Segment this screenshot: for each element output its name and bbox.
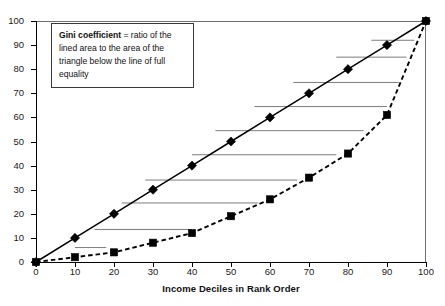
x-tick-label-70: 70 xyxy=(304,266,315,277)
data-point-0-50 xyxy=(226,137,235,146)
x-tick-label-90: 90 xyxy=(382,266,393,277)
y-tick-label-100: 100 xyxy=(8,15,24,26)
y-tick-label-80: 80 xyxy=(13,63,24,74)
data-point-1-40 xyxy=(188,229,195,236)
data-point-1-30 xyxy=(149,239,156,246)
data-point-1-70 xyxy=(305,174,312,181)
data-point-0-10 xyxy=(70,233,79,242)
data-point-0-40 xyxy=(187,161,196,170)
x-tick-label-100: 100 xyxy=(418,266,434,277)
y-tick-label-60: 60 xyxy=(13,111,24,122)
x-tick-label-0: 0 xyxy=(33,266,38,277)
x-tick-label-60: 60 xyxy=(265,266,276,277)
data-point-1-90 xyxy=(383,111,390,118)
data-point-1-80 xyxy=(344,150,351,157)
data-point-0-90 xyxy=(382,41,391,50)
data-point-1-10 xyxy=(71,254,78,261)
x-tick-label-10: 10 xyxy=(70,266,81,277)
x-tick-label-40: 40 xyxy=(187,266,198,277)
y-tick-label-20: 20 xyxy=(13,208,24,219)
y-tick-label-70: 70 xyxy=(13,87,24,98)
y-axis-tick-labels: 0102030405060708090100 xyxy=(0,21,30,262)
data-point-1-100 xyxy=(422,17,429,24)
gini-term-label: Gini coefficient xyxy=(59,30,121,40)
x-axis-title: Income Deciles in Rank Order xyxy=(36,283,426,294)
y-tick-label-40: 40 xyxy=(13,160,24,171)
x-tick-label-30: 30 xyxy=(148,266,159,277)
x-tick-label-80: 80 xyxy=(343,266,354,277)
y-tick-label-0: 0 xyxy=(19,256,24,267)
data-point-0-30 xyxy=(148,185,157,194)
y-tick-label-50: 50 xyxy=(13,136,24,147)
data-point-1-20 xyxy=(110,249,117,256)
gini-definition-box: Gini coefficient = ratio of the lined ar… xyxy=(51,23,194,88)
x-axis-tick-labels: 0102030405060708090100 xyxy=(36,266,428,280)
x-tick-label-50: 50 xyxy=(226,266,237,277)
data-point-0-60 xyxy=(265,113,274,122)
data-point-1-50 xyxy=(227,213,234,220)
data-point-1-0 xyxy=(32,258,39,265)
data-point-0-70 xyxy=(304,89,313,98)
y-tick-label-10: 10 xyxy=(13,232,24,243)
y-tick-label-90: 90 xyxy=(13,39,24,50)
data-point-0-20 xyxy=(109,209,118,218)
data-point-0-80 xyxy=(343,65,352,74)
x-tick-label-20: 20 xyxy=(109,266,120,277)
y-tick-label-30: 30 xyxy=(13,184,24,195)
lorenz-curve-chart: 0102030405060708090100 01020304050607080… xyxy=(0,0,445,306)
data-point-1-60 xyxy=(266,196,273,203)
